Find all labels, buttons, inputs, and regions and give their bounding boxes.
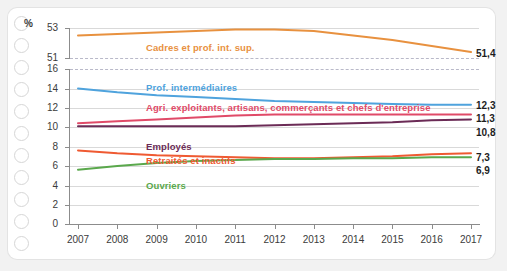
x-axis-label-2013: 2013 bbox=[294, 234, 334, 245]
series-label-ouvriers: Ouvriers bbox=[146, 180, 186, 191]
series-label-employes: Employés bbox=[146, 141, 192, 152]
y-axis-label-0: 0 bbox=[18, 219, 58, 229]
x-axis-label-2009: 2009 bbox=[137, 234, 177, 245]
x-axis-label-2017: 2017 bbox=[451, 234, 491, 245]
punch-hole bbox=[14, 236, 29, 251]
series-label-cadres: Cadres et prof. int. sup. bbox=[146, 42, 255, 53]
end-value-agri-artisans: 11,3 bbox=[476, 113, 495, 124]
y-axis-label-10: 10 bbox=[18, 122, 58, 132]
x-axis-label-2016: 2016 bbox=[412, 234, 452, 245]
series-label-agri-artisans: Agri. exploitants, artisans, commerçants… bbox=[146, 102, 431, 113]
series-label-retraites: Retraités et inactifs bbox=[146, 155, 236, 166]
y-axis-label-8: 8 bbox=[18, 142, 58, 152]
y-axis-label-6: 6 bbox=[18, 161, 58, 171]
y-axis-label-51: 51 bbox=[18, 53, 58, 63]
end-value-prof-intermediaires: 12,3 bbox=[476, 100, 495, 111]
plot-area: 53 51 16 14 12 10 8 6 4 2 0 2007 2008 20… bbox=[70, 28, 479, 225]
end-value-employes: 10,8 bbox=[476, 127, 495, 138]
x-axis-label-2015: 2015 bbox=[372, 234, 412, 245]
x-axis-label-2008: 2008 bbox=[97, 234, 137, 245]
punch-holes-strip bbox=[14, 14, 42, 254]
x-axis-label-2010: 2010 bbox=[176, 234, 216, 245]
x-axis-label-2014: 2014 bbox=[333, 234, 373, 245]
y-axis-label-16: 16 bbox=[18, 64, 58, 74]
y-axis-label-2: 2 bbox=[18, 200, 58, 210]
y-axis-label-12: 12 bbox=[18, 103, 58, 113]
series-lines bbox=[70, 28, 479, 225]
end-value-retraites: 7,3 bbox=[476, 152, 490, 163]
y-axis-label-4: 4 bbox=[18, 181, 58, 191]
y-axis-label-53: 53 bbox=[18, 23, 58, 33]
series-line bbox=[78, 30, 471, 53]
x-axis-label-2007: 2007 bbox=[58, 234, 98, 245]
punch-hole bbox=[14, 38, 29, 53]
chart-page: % 53 51 16 14 12 10 8 bbox=[0, 0, 507, 271]
end-value-ouvriers: 6,9 bbox=[476, 165, 490, 176]
y-axis-label-14: 14 bbox=[18, 84, 58, 94]
series-label-prof-intermediaires: Prof. intermédiaires bbox=[146, 82, 237, 93]
series-line bbox=[78, 157, 471, 170]
x-axis-label-2011: 2011 bbox=[215, 234, 255, 245]
x-axis-label-2012: 2012 bbox=[255, 234, 295, 245]
end-value-cadres: 51,4 bbox=[476, 48, 495, 59]
